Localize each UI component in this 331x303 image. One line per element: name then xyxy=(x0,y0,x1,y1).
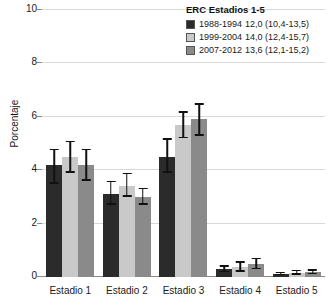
error-bar xyxy=(296,270,298,275)
bar-column[interactable] xyxy=(62,10,78,277)
bar-group: Estadio 1 xyxy=(42,10,99,277)
bar-group: Estadio 2 xyxy=(99,10,156,277)
legend-swatch-icon xyxy=(186,20,195,29)
legend-period-label: 2007-2012 xyxy=(199,46,245,55)
error-bar xyxy=(199,103,201,135)
bar-chart: Porcentaje 0246810Estadio 1Estadio 2Esta… xyxy=(0,0,331,303)
bar-column[interactable] xyxy=(46,10,62,277)
error-bar xyxy=(86,149,88,181)
bar[interactable] xyxy=(103,194,119,277)
error-bar xyxy=(255,258,257,269)
legend-item[interactable]: 2007-201213,6 (12,1-15,2) xyxy=(186,46,309,55)
legend-swatch-icon xyxy=(186,33,195,42)
chart-legend: ERC Estadios 1-5 1988-199412,0 (10,4-13,… xyxy=(186,5,309,59)
y-axis-title: Porcentaje xyxy=(9,74,20,174)
bar[interactable] xyxy=(78,165,94,277)
error-bar xyxy=(110,181,112,205)
bar[interactable] xyxy=(175,125,191,277)
legend-title: ERC Estadios 1-5 xyxy=(186,5,309,15)
legend-period-label: 1999-2004 xyxy=(199,33,245,42)
error-bar xyxy=(239,261,241,272)
x-tick-label: Estadio 1 xyxy=(49,285,91,296)
error-bar xyxy=(126,173,128,197)
error-bar xyxy=(312,269,314,274)
error-bar xyxy=(167,138,169,173)
legend-item[interactable]: 1999-200414,0 (12,4-15,7) xyxy=(186,33,309,42)
x-tick-label: Estadio 5 xyxy=(276,285,318,296)
x-tick-label: Estadio 3 xyxy=(163,285,205,296)
legend-value-label: 14,0 (12,4-15,7) xyxy=(245,33,309,42)
bar-column[interactable] xyxy=(135,10,151,277)
error-bar xyxy=(70,141,72,173)
x-tick-label: Estadio 2 xyxy=(106,285,148,296)
bar-column[interactable] xyxy=(103,10,119,277)
legend-value-label: 12,0 (10,4-13,5) xyxy=(245,20,309,29)
legend-value-label: 13,6 (12,1-15,2) xyxy=(245,46,309,55)
x-tick-label: Estadio 4 xyxy=(219,285,261,296)
legend-period-label: 1988-1994 xyxy=(199,20,245,29)
error-bar xyxy=(280,272,282,276)
bar[interactable] xyxy=(119,186,135,277)
bar-column[interactable] xyxy=(159,10,175,277)
y-tick-label: 10 xyxy=(26,4,37,14)
legend-item[interactable]: 1988-199412,0 (10,4-13,5) xyxy=(186,20,309,29)
error-bar xyxy=(183,111,185,138)
bar-column[interactable] xyxy=(78,10,94,277)
bar[interactable] xyxy=(191,119,207,277)
bar[interactable] xyxy=(62,157,78,277)
legend-entries: 1988-199412,0 (10,4-13,5)1999-200414,0 (… xyxy=(186,20,309,55)
error-bar xyxy=(223,265,225,272)
bar[interactable] xyxy=(135,197,151,277)
legend-swatch-icon xyxy=(186,46,195,55)
bar[interactable] xyxy=(159,157,175,277)
error-bar xyxy=(54,149,56,184)
bar-column[interactable] xyxy=(119,10,135,277)
error-bar xyxy=(142,188,144,205)
